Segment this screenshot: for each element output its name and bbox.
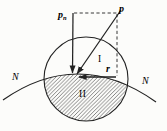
label-N-right: N	[141, 75, 150, 86]
label-region-I: I	[98, 54, 102, 64]
figure-canvas: p pn r N N I II	[0, 0, 167, 131]
label-vector-pn-sub: n	[63, 14, 67, 21]
label-N-left: N	[11, 71, 20, 82]
label-vector-p: p	[118, 3, 124, 14]
pressure-sphere-diagram: p pn r N N I II	[0, 0, 167, 131]
label-vector-r: r	[106, 63, 110, 74]
label-vector-pn: pn	[57, 9, 67, 21]
label-region-II: II	[79, 89, 86, 99]
vector-pn	[73, 13, 74, 73]
vector-p	[77, 10, 121, 74]
hatched-region-lower-segment	[3, 74, 156, 131]
